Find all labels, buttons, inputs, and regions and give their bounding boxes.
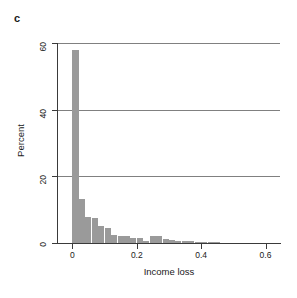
histogram-bar: [182, 241, 188, 243]
gridline-20: [58, 176, 280, 177]
histogram-bar: [208, 242, 214, 243]
y-tick-label: 40: [38, 109, 48, 139]
histogram-bar: [137, 238, 143, 243]
histogram-bar: [130, 238, 136, 243]
histogram-bar: [214, 242, 220, 243]
histogram-bar: [105, 228, 111, 243]
y-tick: [52, 243, 57, 244]
histogram-bar: [111, 235, 117, 243]
y-tick: [52, 43, 57, 44]
x-tick-label: 0: [52, 250, 92, 260]
histogram-bar: [72, 50, 78, 243]
x-axis-line: [52, 243, 281, 244]
histogram-bar: [118, 236, 124, 243]
plot-area: [58, 43, 280, 243]
y-axis-title: Percent: [0, 0, 24, 298]
histogram-bar: [175, 241, 181, 243]
gridline-40: [58, 110, 280, 111]
x-tick: [72, 244, 73, 249]
histogram-bar: [150, 236, 156, 243]
histogram-bar: [188, 241, 194, 243]
x-tick-label: 0.4: [181, 250, 221, 260]
y-tick-label: 60: [38, 42, 48, 72]
gridline-60: [58, 43, 280, 44]
histogram-bar: [92, 218, 98, 243]
y-tick-label: 0: [38, 242, 48, 272]
histogram-bar: [163, 239, 169, 243]
histogram-bar: [201, 242, 207, 243]
x-tick: [201, 244, 202, 249]
x-tick-label: 0.6: [246, 250, 286, 260]
x-tick: [266, 244, 267, 249]
y-tick: [52, 176, 57, 177]
y-tick-label: 20: [38, 175, 48, 205]
histogram-bar: [124, 236, 130, 243]
histogram-bar: [156, 236, 162, 243]
figure-panel-c: c 0204060 00.20.40.6 Percent Income loss: [0, 0, 297, 298]
histogram-bar: [79, 199, 85, 243]
histogram-bar: [143, 241, 149, 243]
histogram-bar: [195, 242, 201, 243]
x-axis-title: Income loss: [58, 266, 280, 277]
x-tick: [137, 244, 138, 249]
y-tick: [52, 110, 57, 111]
histogram-bar: [169, 240, 175, 243]
histogram-bar: [98, 226, 104, 243]
histogram-bar: [85, 217, 91, 243]
x-tick-label: 0.2: [117, 250, 157, 260]
